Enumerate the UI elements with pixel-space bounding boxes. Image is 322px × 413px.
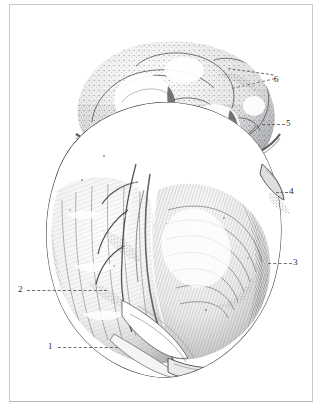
label-4: 4 [289, 187, 294, 196]
label-1: 1 [48, 342, 53, 351]
label-5-leader [262, 124, 285, 125]
label-4-leader [276, 192, 288, 193]
heart-engraving [18, 14, 306, 386]
label-1-leader [58, 347, 118, 348]
label-2: 2 [18, 285, 23, 294]
label-6: 6 [274, 75, 279, 84]
label-5: 5 [286, 119, 291, 128]
label-3: 3 [293, 258, 298, 267]
anatomical-plate: 654321 [0, 0, 322, 413]
label-2-leader [27, 290, 107, 291]
label-3-leader [268, 263, 292, 264]
